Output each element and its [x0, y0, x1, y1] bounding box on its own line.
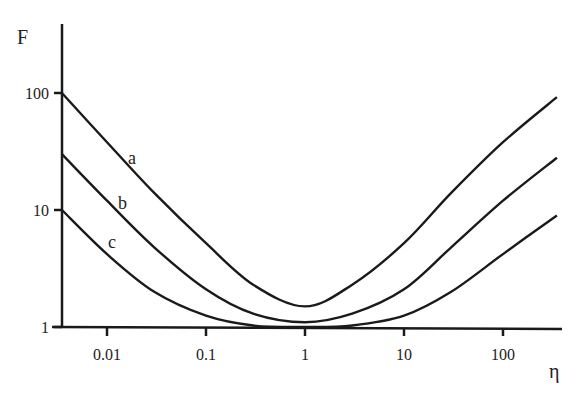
chart: F η a b c 0.010.1110100110100: [0, 0, 583, 394]
x-tick-label: 1: [301, 346, 309, 363]
curve-label-b: b: [118, 193, 127, 213]
tick-labels: 0.010.1110100110100: [25, 85, 515, 363]
y-axis-label: F: [17, 26, 28, 48]
x-tick-label: 10: [396, 346, 412, 363]
y-tick-label: 10: [33, 202, 49, 219]
curve-b: [62, 154, 557, 322]
curve-c: [62, 210, 557, 327]
curve-label-c: c: [108, 232, 116, 252]
y-tick-label: 1: [41, 319, 49, 336]
x-tick-label: 100: [491, 346, 515, 363]
curve-a: [62, 93, 557, 306]
x-axis-label: η: [549, 360, 559, 383]
y-tick-label: 100: [25, 85, 49, 102]
x-tick-label: 0.1: [196, 346, 216, 363]
curves: [62, 93, 557, 327]
x-tick-label: 0.01: [93, 346, 121, 363]
axes: [52, 24, 562, 329]
curve-label-a: a: [128, 148, 136, 168]
